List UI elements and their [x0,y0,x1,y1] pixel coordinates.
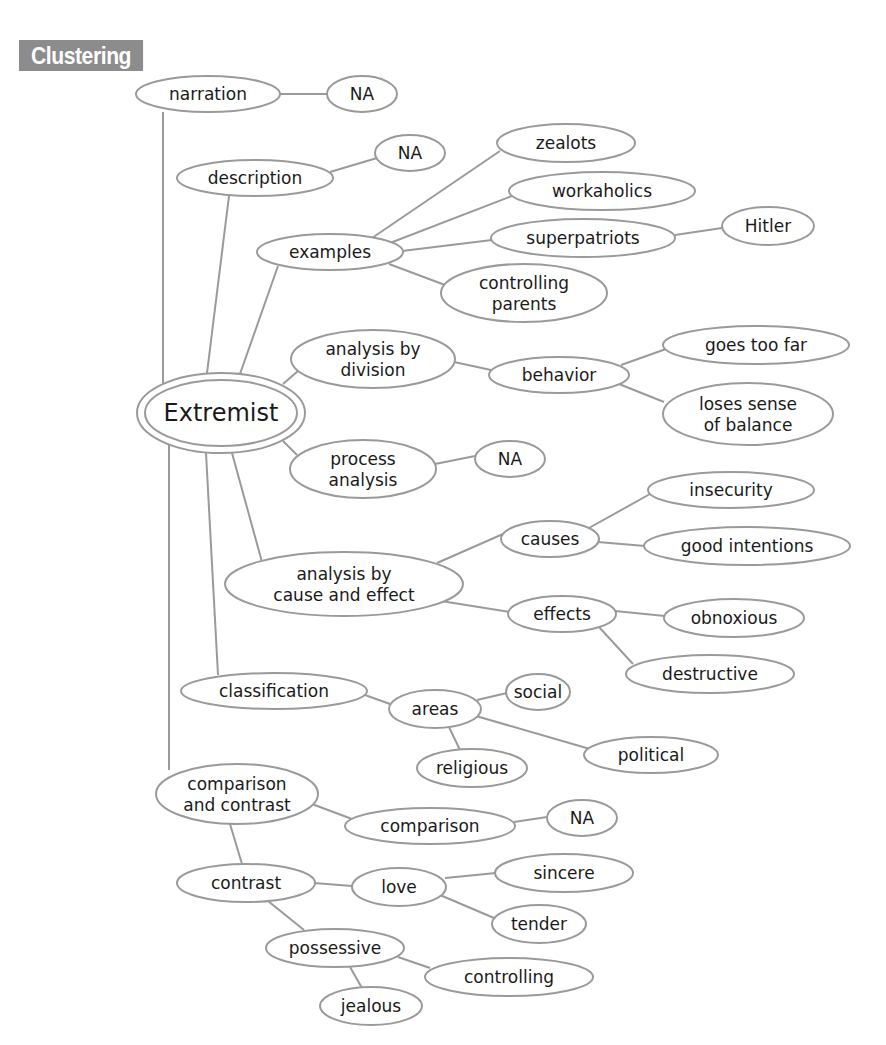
node-label: Hitler [745,216,791,236]
node-behavior: behavior [489,357,629,393]
node-label: contrast [211,873,281,893]
node-areas: areas [389,690,481,728]
edge-behavior-to-loses-sense [619,384,664,402]
node-label: analysis by [296,564,391,584]
edge-extremist-to-description [207,196,229,373]
edge-comparison-contrast-to-contrast [230,824,242,864]
edge-extremist-to-analysis-by-division [283,371,298,384]
node-label: NA [570,808,595,828]
node-label: religious [436,758,508,778]
node-label: social [514,682,562,702]
node-narration: narration [136,76,280,112]
node-label: process [330,449,395,469]
node-label: causes [521,529,580,549]
edge-effects-to-destructive [599,627,633,664]
edge-contrast-to-love [314,883,352,886]
node-label: description [208,168,303,188]
node-love: love [352,868,446,906]
node-label: examples [289,242,371,262]
node-controlling-parents: controllingparents [441,264,607,322]
edge-cause-effect-to-causes [437,534,503,563]
node-label: superpatriots [526,228,640,248]
node-destructive: destructive [626,655,794,693]
node-causes: causes [501,521,599,557]
node-religious: religious [417,749,527,787]
node-label: parents [492,294,557,314]
edge-love-to-sincere [445,873,496,878]
cluster-diagram: ExtremistnarrationNAdescriptionNAexample… [0,0,886,1045]
node-goes-too-far: goes too far [663,326,849,364]
edge-possessive-to-controlling [398,957,430,968]
node-hitler: Hitler [722,207,814,245]
node-label: comparison [187,774,286,794]
node-analysis-by-division: analysis bydivision [291,330,455,388]
node-label: analysis [329,470,398,490]
edge-process-analysis-to-na3 [435,456,475,464]
node-na4: NA [547,800,617,836]
edge-possessive-to-jealous [350,967,362,988]
edge-areas-to-political [476,716,590,749]
node-label: goes too far [705,335,807,355]
edge-love-to-tender [440,895,494,918]
node-process-analysis: processanalysis [290,440,436,498]
node-label: effects [533,604,591,624]
node-extremist: Extremist [137,373,305,453]
node-label: comparison [380,816,479,836]
node-obnoxious: obnoxious [664,599,804,637]
node-jealous: jealous [320,987,422,1025]
node-social: social [506,674,570,710]
node-tender: tender [492,905,586,943]
edge-areas-to-religious [449,727,460,750]
node-label: love [381,877,417,897]
node-controlling: controlling [425,958,593,996]
edge-cause-effect-to-effects [441,601,510,612]
edge-causes-to-insecurity [589,494,650,528]
edge-extremist-to-examples [240,266,278,374]
node-classification: classification [181,673,367,709]
node-label: behavior [522,365,597,385]
node-comparison-contrast: comparisonand contrast [156,764,318,824]
node-label: NA [398,143,423,163]
node-label: possessive [289,938,381,958]
node-label: Extremist [164,399,279,427]
node-label: good intentions [681,536,814,556]
node-label: tender [511,914,567,934]
node-label: analysis by [325,339,420,359]
node-label: loses sense [699,394,797,414]
node-label: areas [412,699,459,719]
node-label: cause and effect [273,585,415,605]
node-na1: NA [327,76,397,112]
node-label: destructive [662,664,758,684]
edge-behavior-to-goes-too-far [621,349,666,365]
edge-classification-to-areas [365,695,390,704]
node-sincere: sincere [495,854,633,892]
node-label: NA [498,449,523,469]
edge-effects-to-obnoxious [615,611,665,616]
edge-extremist-to-classification [206,453,218,675]
node-insecurity: insecurity [648,472,814,508]
node-na3: NA [475,441,545,477]
node-label: controlling [464,967,554,987]
node-workaholics: workaholics [509,172,695,210]
node-label: sincere [533,863,594,883]
node-zealots: zealots [497,124,635,162]
node-superpatriots: superpatriots [491,219,675,257]
edge-analysis-by-division-to-behavior [454,362,491,370]
node-description: description [177,160,333,196]
edge-comparison-to-na4 [514,817,547,822]
node-label: zealots [536,133,597,153]
node-label: narration [169,84,247,104]
edge-comparison-contrast-to-comparison [312,804,352,819]
node-label: of balance [704,415,793,435]
edge-examples-to-controlling-parents [389,264,445,285]
edge-extremist-to-cause-effect [232,453,262,562]
node-label: controlling [479,273,569,293]
node-label: jealous [340,996,401,1016]
node-cause-effect: analysis bycause and effect [225,552,463,616]
node-label: obnoxious [691,608,778,628]
node-comparison: comparison [345,808,515,844]
node-label: insecurity [689,480,772,500]
edge-causes-to-good-intentions [598,542,645,546]
node-loses-sense: loses senseof balance [663,383,833,445]
cluster-nodes: ExtremistnarrationNAdescriptionNAexample… [136,76,850,1025]
